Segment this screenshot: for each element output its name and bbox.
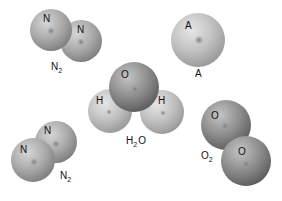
molecule-n2-top: N N N2 — [30, 9, 102, 74]
nucleus-icon — [161, 111, 166, 116]
atom-label: H — [96, 95, 103, 106]
formula-label: A — [195, 68, 202, 79]
atom-label: A — [185, 20, 192, 31]
nucleus-icon — [48, 28, 55, 35]
nucleus-icon — [243, 161, 250, 168]
atom-label: O — [121, 69, 129, 80]
molecule-diagram-svg: N N N2 A A O H H H2O — [0, 0, 282, 201]
nucleus-icon — [107, 110, 112, 115]
formula-label: H2O — [126, 135, 146, 148]
formula-label: O2 — [201, 150, 213, 163]
nucleus-icon — [195, 36, 203, 44]
molecule-diagram: N N N2 A A O H H H2O — [0, 0, 282, 201]
molecule-n2-bottom: N N N2 — [11, 121, 77, 183]
molecule-water: O H H H2O — [88, 62, 184, 148]
formula-label: N2 — [60, 170, 71, 183]
atom-label: N — [77, 24, 84, 35]
atom-label: N — [20, 144, 27, 155]
molecule-o2: O O O2 — [201, 100, 271, 186]
atom-label: N — [44, 125, 51, 136]
nucleus-icon — [222, 123, 229, 130]
nucleus-icon — [31, 159, 38, 166]
nucleus-icon — [53, 141, 60, 148]
atom-label: N — [43, 13, 50, 24]
atom-label: H — [158, 95, 165, 106]
atom-label: O — [211, 110, 219, 121]
nucleus-icon — [132, 86, 139, 93]
nucleus-icon — [78, 39, 85, 46]
formula-label: N2 — [51, 61, 62, 74]
molecule-argon: A A — [171, 13, 225, 79]
atom-label: O — [238, 146, 246, 157]
